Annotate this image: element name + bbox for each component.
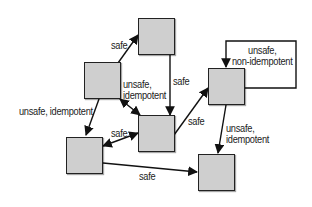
state-node-d <box>208 68 245 105</box>
edge-label-e-to-f: safe <box>139 171 155 182</box>
edge-label-d-self: unsafe, non-idempotent <box>232 45 293 67</box>
edge-label-d-to-f: unsafe, idempotent <box>226 123 269 145</box>
state-node-e <box>66 137 103 174</box>
edge-label-b-to-e: unsafe, idempotent <box>19 106 93 117</box>
edge-label-b-to-a: safe <box>111 40 127 51</box>
edge-label-b-c: unsafe, idempotent <box>123 79 166 101</box>
state-node-f <box>198 154 235 191</box>
edge-label-e-c: safe <box>111 128 127 139</box>
edge-label-c-to-d: safe <box>188 116 204 127</box>
state-diagram: safe safe unsafe, idempotent unsafe, ide… <box>0 0 312 207</box>
state-node-b <box>84 62 121 99</box>
state-node-c <box>138 115 175 152</box>
edge-c-to-d <box>174 88 208 135</box>
edge-label-a-to-c: safe <box>173 76 189 87</box>
state-node-a <box>138 18 175 55</box>
edge-b-c <box>120 99 140 115</box>
edge-d-to-f <box>218 105 226 153</box>
